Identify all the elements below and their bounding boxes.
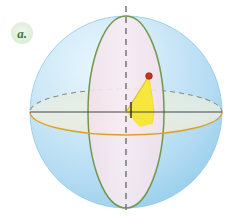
- marked-point-on-sphere: [146, 73, 153, 80]
- figure-root: a.: [0, 0, 226, 220]
- sphere-diagram-svg: a.: [0, 0, 226, 220]
- part-label-text: a.: [17, 26, 27, 41]
